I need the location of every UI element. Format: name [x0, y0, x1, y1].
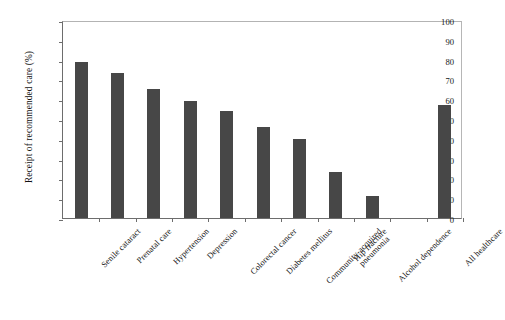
y-axis-tick [59, 22, 63, 23]
x-axis-tick [99, 218, 100, 222]
bar [293, 139, 306, 218]
y-axis-tick [59, 42, 63, 43]
x-axis-tick [172, 218, 173, 222]
bar [220, 111, 233, 218]
y-axis-tick-label: 100 [441, 17, 454, 27]
bar [111, 73, 124, 218]
x-axis-tick-label: Alcohol dependence [396, 226, 454, 284]
y-axis-tick-label: 70 [445, 76, 454, 86]
y-axis-tick-label: 90 [445, 37, 454, 47]
y-axis-tick [59, 200, 63, 201]
bar [329, 172, 342, 218]
bar [257, 127, 270, 218]
y-axis-tick [59, 180, 63, 181]
x-axis-tick [318, 218, 319, 222]
x-axis-tick-label: Hypertension [171, 226, 212, 267]
y-axis-tick [59, 161, 63, 162]
x-axis-tick [463, 218, 464, 222]
y-axis-tick [59, 121, 63, 122]
y-axis-title: Receipt of recommended care (%) [22, 12, 36, 222]
y-axis-tick [59, 220, 63, 221]
x-axis-tick [281, 218, 282, 222]
x-axis-tick [427, 218, 428, 222]
y-axis-tick-label: 80 [445, 57, 454, 67]
bar [438, 105, 451, 218]
y-axis-tick [59, 141, 63, 142]
plot-area: 0102030405060708090100 [62, 21, 462, 219]
bar [147, 89, 160, 218]
y-axis-tick [59, 101, 63, 102]
x-axis-tick [354, 218, 355, 222]
bar [184, 101, 197, 218]
x-axis-tick-label: Senile cataract [99, 226, 143, 270]
y-axis-tick [59, 62, 63, 63]
bar [75, 62, 88, 218]
x-axis-tick [390, 218, 391, 222]
x-axis-tick-label: All healthcare [462, 226, 504, 268]
x-axis-tick [136, 218, 137, 222]
x-axis-tick [245, 218, 246, 222]
bar [366, 196, 379, 218]
y-axis-tick [59, 81, 63, 82]
x-axis-tick [208, 218, 209, 222]
